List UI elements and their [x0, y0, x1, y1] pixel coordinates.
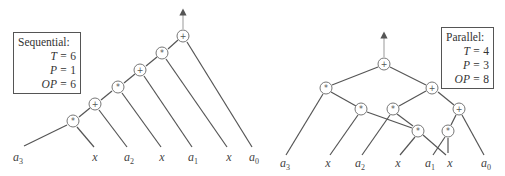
leaf-a2: a2 — [355, 156, 365, 172]
sequential-metric-p: P = 1 — [18, 63, 76, 77]
sequential-metric-op: OP = 6 — [18, 77, 76, 91]
leaf-x: x — [226, 150, 231, 165]
multiply-node: * — [412, 125, 424, 137]
sequential-title: Sequential: — [18, 35, 76, 49]
multiply-node: * — [320, 82, 332, 94]
svg-text:*: * — [160, 49, 164, 58]
svg-text:+: + — [137, 66, 144, 75]
svg-text:*: * — [359, 105, 363, 114]
svg-text:+: + — [381, 60, 388, 69]
add-node: + — [378, 58, 390, 70]
leaf-a1: a1 — [425, 156, 435, 172]
svg-text:+: + — [456, 105, 463, 114]
multiply-node: * — [156, 47, 168, 59]
svg-text:*: * — [116, 83, 120, 92]
multiply-node: * — [67, 115, 79, 127]
parallel-title: Parallel: — [446, 30, 489, 44]
multiply-node: * — [442, 125, 454, 137]
svg-text:*: * — [391, 105, 395, 114]
sequential-metric-t: T = 6 — [18, 49, 76, 63]
leaf-a0: a0 — [249, 150, 259, 166]
parallel-info-box: Parallel: T = 4 P = 3 OP = 8 — [441, 27, 494, 89]
add-node: + — [89, 98, 101, 110]
svg-text:+: + — [92, 100, 99, 109]
add-node: + — [134, 64, 146, 76]
svg-text:*: * — [416, 127, 420, 136]
parallel-metric-t: T = 4 — [446, 44, 489, 58]
leaf-x: x — [447, 156, 452, 171]
parallel-metric-p: P = 3 — [446, 58, 489, 72]
leaf-x: x — [159, 150, 164, 165]
sequential-info-box: Sequential: T = 6 P = 1 OP = 6 — [13, 32, 81, 94]
svg-text:*: * — [324, 84, 328, 93]
parallel-metric-op: OP = 8 — [446, 72, 489, 86]
leaf-x: x — [395, 156, 400, 171]
leaf-a3: a3 — [280, 156, 290, 172]
leaf-a3: a3 — [13, 150, 23, 166]
leaf-a1: a1 — [188, 150, 198, 166]
leaf-a0: a0 — [481, 156, 491, 172]
add-node: + — [426, 82, 438, 94]
svg-text:+: + — [180, 32, 187, 41]
svg-text:+: + — [429, 84, 436, 93]
multiply-node: * — [355, 103, 367, 115]
multiply-node: * — [112, 81, 124, 93]
multiply-node: * — [387, 103, 399, 115]
svg-text:*: * — [71, 117, 75, 126]
leaf-a2: a2 — [124, 150, 134, 166]
leaf-x: x — [325, 156, 330, 171]
add-node: + — [177, 30, 189, 42]
svg-text:*: * — [446, 127, 450, 136]
add-node: + — [453, 103, 465, 115]
leaf-x: x — [92, 150, 97, 165]
